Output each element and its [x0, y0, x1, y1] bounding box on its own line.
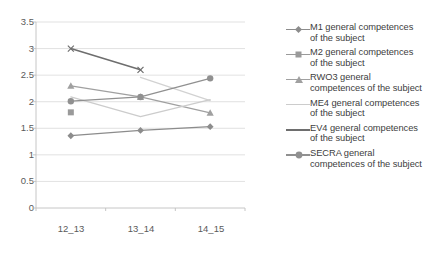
legend-label-line1: ME4 general competences: [310, 98, 419, 108]
legend-label-line1: M2 general competences: [310, 47, 413, 57]
legend-label: RWO3 general competences of the subject: [310, 72, 422, 93]
legend-item[interactable]: ME4 general competences of the subject: [286, 98, 446, 119]
legend-item[interactable]: M2 general competences of the subject: [286, 47, 446, 68]
legend-label: SECRA general competences of the subject: [310, 148, 422, 169]
legend-label: ME4 general competences of the subject: [310, 98, 419, 119]
legend-label-line1: RWO3 general: [310, 72, 371, 82]
legend-label-line2: competences of the subject: [310, 83, 422, 93]
line-chart: 3.5 3 2.5 2 1.5 1 0.5 0 12_13 13_14 14_1…: [0, 0, 446, 257]
legend-label-line2: competences of the subject: [310, 159, 422, 169]
line-marker-icon: [286, 124, 310, 136]
legend-label-line1: SECRA general: [310, 148, 374, 158]
legend-label-line2: of the subject: [310, 58, 365, 68]
circle-marker-icon: [286, 149, 310, 161]
legend-label-line2: of the subject: [310, 108, 365, 118]
legend-label-line1: EV4 general competences: [310, 123, 418, 133]
legend-label: M1 general competences of the subject: [310, 22, 413, 43]
legend-item[interactable]: M1 general competences of the subject: [286, 22, 446, 43]
legend-label-line1: M1 general competences: [310, 22, 413, 32]
diamond-marker-icon: [286, 23, 310, 35]
legend-label: EV4 general competences of the subject: [310, 123, 418, 144]
line-marker-icon: [286, 99, 310, 111]
square-marker-icon: [286, 48, 310, 60]
legend-item[interactable]: EV4 general competences of the subject: [286, 123, 446, 144]
legend-label-line2: of the subject: [310, 33, 365, 43]
triangle-marker-icon: [286, 73, 310, 85]
legend-item[interactable]: SECRA general competences of the subject: [286, 148, 446, 169]
legend-label: M2 general competences of the subject: [310, 47, 413, 68]
chart-legend: M1 general competences of the subject M2…: [286, 22, 446, 173]
legend-label-line2: of the subject: [310, 133, 365, 143]
legend-item[interactable]: RWO3 general competences of the subject: [286, 72, 446, 93]
